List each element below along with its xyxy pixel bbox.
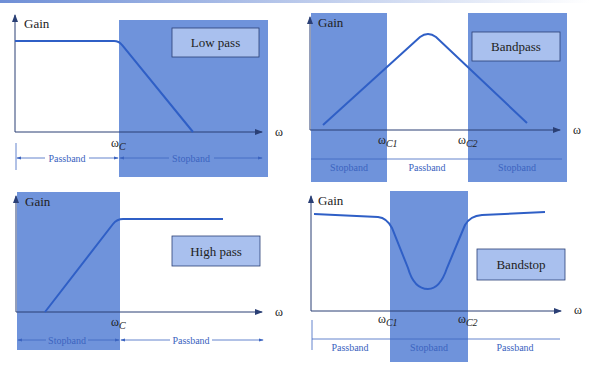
- band-label: Stopband: [410, 342, 448, 353]
- filter-title: High pass: [190, 244, 242, 259]
- y-axis-label: Gain: [25, 194, 51, 209]
- y-axis-label: Gain: [24, 16, 50, 31]
- stopband-region: [390, 191, 468, 362]
- panel-highpass: Gain ω High pass ωC Stopband Passband: [16, 192, 283, 350]
- panel-bandstop: Gain ω Bandstop ωC1 ωC2 Passband Stopban…: [311, 191, 582, 362]
- cutoff-label: ωC: [111, 315, 126, 331]
- band-label: Passband: [331, 342, 368, 353]
- stopband-region: [311, 13, 387, 182]
- band-label: Stopband: [172, 153, 210, 164]
- x-axis-label: ω: [275, 305, 283, 319]
- x-axis-label: ω: [573, 123, 581, 137]
- filter-title: Low pass: [191, 35, 240, 50]
- panel-bandpass: Gain ω Bandpass ωC1 ωC2 Stopband Passban…: [310, 13, 581, 182]
- band-label: Stopband: [498, 162, 536, 173]
- band-label: Stopband: [48, 335, 86, 346]
- x-axis-label: ω: [275, 125, 283, 139]
- panel-lowpass: Gain ω Low pass ωC Passband Stopband: [15, 15, 283, 177]
- cutoff-label: ωC1: [378, 133, 398, 149]
- y-axis-label: Gain: [318, 15, 344, 30]
- y-axis-label: Gain: [318, 193, 344, 208]
- filter-title: Bandstop: [496, 257, 545, 272]
- filter-types-diagram: Gain ω Low pass ωC Passband Stopband Gai…: [0, 0, 590, 375]
- stopband-region: [17, 192, 120, 350]
- x-axis-label: ω: [574, 303, 582, 317]
- band-label: Passband: [172, 335, 209, 346]
- band-label: Passband: [496, 342, 533, 353]
- band-label: Passband: [408, 162, 445, 173]
- band-label: Stopband: [330, 162, 368, 173]
- filter-title: Bandpass: [491, 39, 541, 54]
- band-label: Passband: [48, 153, 85, 164]
